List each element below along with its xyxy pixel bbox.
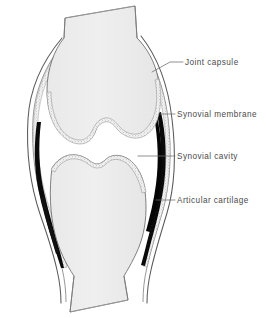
label-articular-cartilage: Articular cartilage	[177, 197, 249, 205]
label-synovial-cavity: Synovial cavity	[177, 153, 238, 161]
label-synovial-membrane: Synovial membrane	[177, 111, 257, 119]
label-joint-capsule: Joint capsule	[185, 59, 239, 67]
